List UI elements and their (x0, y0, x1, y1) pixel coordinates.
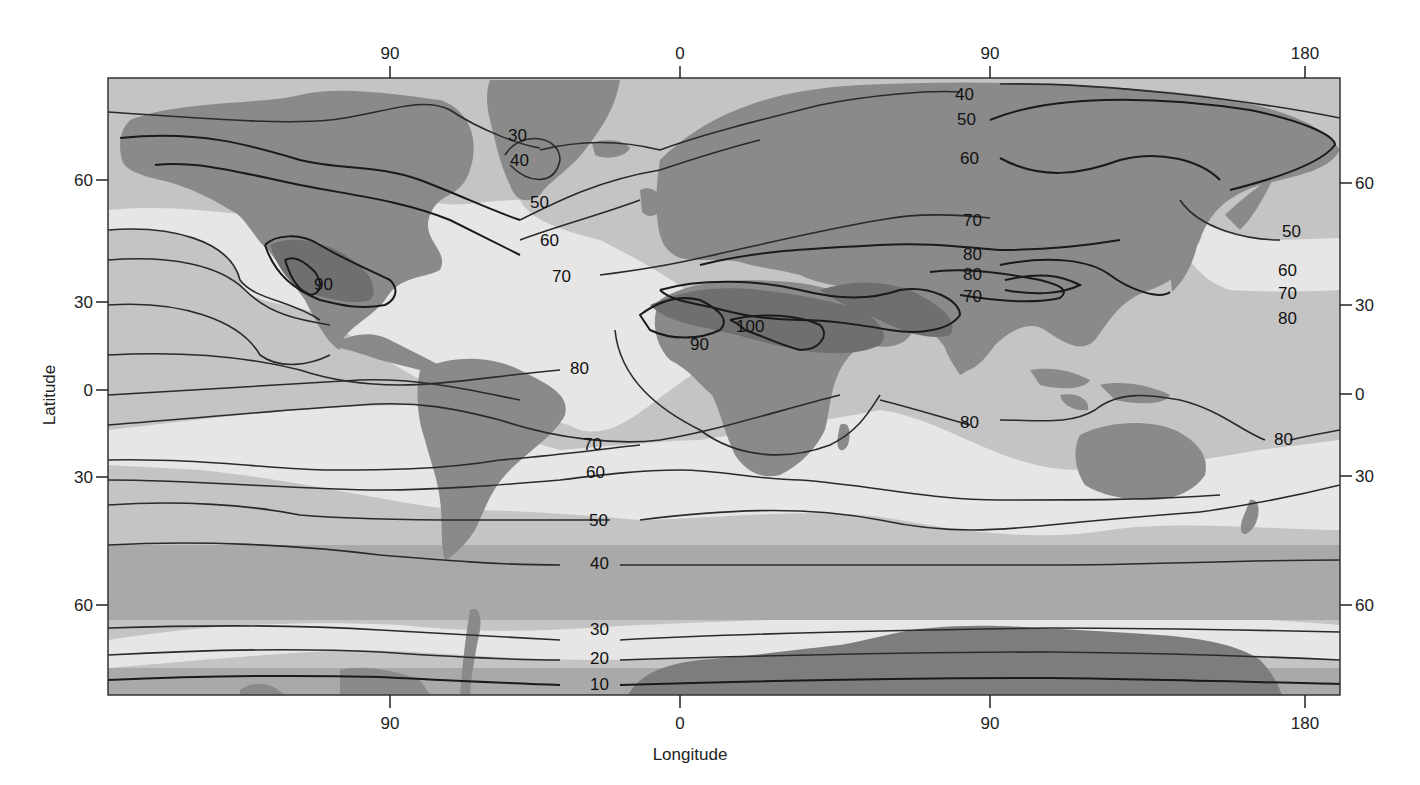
right-tick-label: 60 (1355, 174, 1374, 193)
left-tick-label: 60 (74, 596, 93, 615)
contour-label: 70 (552, 267, 571, 286)
contour-label: 90 (314, 275, 333, 294)
contour-label: 60 (1278, 261, 1297, 280)
contour-label: 100 (736, 317, 764, 336)
contour-label: 70 (963, 287, 982, 306)
bottom-axis (390, 695, 1305, 708)
contour-label: 80 (1278, 309, 1297, 328)
top-tick-label: 90 (981, 44, 1000, 63)
contour-label: 80 (570, 359, 589, 378)
contour-label: 50 (1282, 222, 1301, 241)
left-tick-label: 60 (74, 171, 93, 190)
left-tick-label: 30 (74, 468, 93, 487)
bottom-tick-label: 90 (981, 714, 1000, 733)
top-tick-label: 180 (1291, 44, 1319, 63)
bottom-tick-label: 0 (675, 714, 684, 733)
top-axis (390, 66, 1305, 78)
bottom-tick-label: 90 (381, 714, 400, 733)
left-tick-label: 0 (84, 381, 93, 400)
plot-area (108, 78, 1340, 698)
right-tick-label: 0 (1355, 385, 1364, 404)
contour-label: 80 (1274, 430, 1293, 449)
contour-label: 30 (508, 126, 527, 145)
world-contour-map: 30 40 50 60 70 90 80 40 50 60 70 80 80 7… (0, 0, 1420, 785)
top-tick-label: 0 (675, 44, 684, 63)
contour-label: 60 (540, 231, 559, 250)
left-tick-label: 30 (74, 293, 93, 312)
left-axis (96, 180, 108, 605)
contour-label: 30 (590, 620, 609, 639)
contour-label: 50 (957, 110, 976, 129)
contour-label: 80 (963, 245, 982, 264)
right-axis (1340, 183, 1352, 605)
contour-label: 20 (590, 649, 609, 668)
contour-label: 60 (960, 149, 979, 168)
y-axis-title: Latitude (40, 365, 59, 426)
contour-label: 40 (510, 151, 529, 170)
contour-label: 90 (690, 335, 709, 354)
right-tick-label: 60 (1355, 596, 1374, 615)
contour-label: 70 (963, 211, 982, 230)
right-tick-label: 30 (1355, 296, 1374, 315)
contour-label: 50 (589, 511, 608, 530)
contour-label: 70 (1278, 284, 1297, 303)
bottom-tick-label: 180 (1291, 714, 1319, 733)
contour-label: 50 (530, 193, 549, 212)
contour-label: 40 (590, 554, 609, 573)
top-tick-label: 90 (381, 44, 400, 63)
contour-label: 40 (955, 85, 974, 104)
contour-label: 80 (960, 413, 979, 432)
contour-label: 80 (963, 265, 982, 284)
contour-label: 10 (590, 675, 609, 694)
contour-label: 70 (583, 435, 602, 454)
right-tick-label: 30 (1355, 467, 1374, 486)
x-axis-title: Longitude (653, 745, 728, 764)
contour-label: 60 (586, 463, 605, 482)
